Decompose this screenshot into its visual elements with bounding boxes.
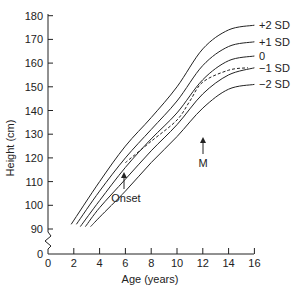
y-ticks: 90100110120130140150160170180 [25, 10, 53, 235]
x-tick-label: 14 [222, 257, 234, 269]
x-tick-label: 16 [248, 257, 260, 269]
m-label: M [198, 157, 207, 169]
series-label: +2 SD [259, 19, 290, 31]
x-ticks: 0246810121416 [45, 248, 261, 269]
x-tick-label: 10 [171, 257, 183, 269]
sd-curve [80, 56, 254, 227]
y-tick-label: 90 [31, 223, 43, 235]
y-tick-label: 110 [25, 176, 43, 188]
y-tick-label: 130 [25, 128, 43, 140]
y-tick-label: 100 [25, 199, 43, 211]
sd-curve [71, 25, 254, 224]
y-zero-label: 0 [37, 248, 43, 260]
x-tick-label: 4 [97, 257, 103, 269]
sd-curve [76, 42, 254, 225]
y-tick-label: 140 [25, 105, 43, 117]
x-tick-label: 12 [197, 257, 209, 269]
x-tick-label: 8 [148, 257, 154, 269]
x-tick-label: 0 [45, 257, 51, 269]
y-tick-label: 160 [25, 57, 43, 69]
series-label: 0 [259, 50, 265, 62]
patient-curve [125, 68, 248, 163]
series-label: −2 SD [259, 78, 290, 90]
x-tick-label: 6 [122, 257, 128, 269]
y-tick-label: 170 [25, 33, 43, 45]
y-tick-label: 120 [25, 152, 43, 164]
y-tick-label: 180 [25, 10, 43, 22]
x-axis-label: Age (years) [122, 273, 179, 285]
m-annotation: M [198, 137, 207, 169]
series-labels: +2 SD+1 SD0−1 SD−2 SD [259, 19, 290, 90]
y-tick-label: 150 [25, 81, 43, 93]
x-tick-label: 2 [71, 257, 77, 269]
y-axis-label: Height (cm) [4, 120, 16, 177]
onset-label: Onset [111, 192, 140, 204]
series-label: −1 SD [259, 62, 290, 74]
sd-curves [71, 25, 254, 226]
series-label: +1 SD [259, 36, 290, 48]
growth-chart: 90100110120130140150160170180 0246810121… [0, 0, 295, 288]
onset-annotation: Onset [111, 172, 140, 204]
